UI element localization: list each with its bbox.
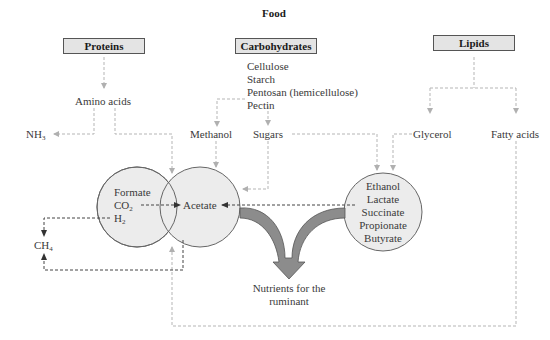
formate-label: Formate <box>114 186 151 199</box>
fatty-acids-label: Fatty acids <box>491 128 539 141</box>
nutrients-label-line2: ruminant <box>239 295 339 308</box>
lactate-label: Lactate <box>343 193 423 206</box>
big-curved-arrow-icon <box>240 208 345 279</box>
sugars-label: Sugars <box>253 128 283 141</box>
proteins-box: Proteins <box>63 38 145 54</box>
nutrients-label-line1: Nutrients for the <box>239 282 339 295</box>
methanol-label: Methanol <box>190 128 232 141</box>
carb-item-pentosan: Pentosan (hemicellulose) <box>247 86 358 99</box>
nh3-label: NH3 <box>26 128 45 145</box>
acetate-label: Acetate <box>183 199 217 212</box>
carb-item-starch: Starch <box>247 73 275 86</box>
diagram-canvas: Food Proteins Carbohydrates Lipids Cellu… <box>0 0 550 340</box>
lipids-box: Lipids <box>433 35 515 51</box>
propionate-label: Propionate <box>343 219 423 232</box>
ch4-label: CH4 <box>34 239 53 256</box>
glycerol-label: Glycerol <box>413 128 451 141</box>
carb-item-cellulose: Cellulose <box>247 60 289 73</box>
amino-acids-label: Amino acids <box>75 95 131 108</box>
h2-label: H2 <box>114 212 125 229</box>
carbohydrates-box: Carbohydrates <box>235 38 317 54</box>
succinate-label: Succinate <box>343 206 423 219</box>
carb-item-pectin: Pectin <box>247 99 275 112</box>
butyrate-label: Butyrate <box>343 232 423 245</box>
ethanol-label: Ethanol <box>343 180 423 193</box>
diagram-title: Food <box>262 7 286 20</box>
